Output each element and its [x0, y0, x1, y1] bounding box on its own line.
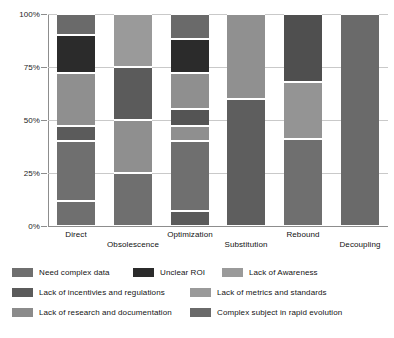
legend-label: Lack of incentivies and regulations	[39, 288, 165, 297]
bar-obsolescence[interactable]	[114, 14, 152, 226]
chart-legend: Need complex dataUnclear ROILack of Awar…	[0, 258, 394, 338]
legend-swatch-icon	[222, 268, 243, 277]
bar-optimization[interactable]	[171, 14, 209, 226]
y-tick-label: 50%	[24, 116, 40, 125]
bar-rebound[interactable]	[284, 14, 322, 226]
legend-label: Complex subject in rapid evolution	[217, 308, 342, 317]
bar-segment[interactable]	[227, 14, 265, 99]
y-axis: 0%25%50%75%100%	[0, 14, 40, 226]
legend-item[interactable]: Lack of Awareness	[222, 266, 318, 278]
y-tick-mark	[41, 226, 47, 227]
legend-label: Lack of research and documentation	[39, 308, 172, 317]
y-tick-label: 25%	[24, 169, 40, 178]
legend-swatch-icon	[190, 308, 211, 317]
legend-label: Lack of metrics and standards	[217, 288, 327, 297]
y-tick-label: 100%	[19, 10, 40, 19]
bar-segment[interactable]	[284, 139, 322, 226]
bar-segment[interactable]	[227, 99, 265, 226]
gridline	[48, 67, 388, 68]
x-tick-label-decoupling: Decoupling	[315, 240, 394, 249]
bar-segment[interactable]	[341, 14, 379, 226]
bar-direct[interactable]	[57, 14, 95, 226]
bar-segment[interactable]	[57, 141, 95, 200]
y-tick-mark	[41, 120, 47, 121]
plot-area	[48, 14, 388, 226]
gridline	[48, 14, 388, 15]
legend-swatch-icon	[190, 288, 211, 297]
x-tick-label-optimization: Optimization	[145, 230, 235, 239]
y-tick-label: 75%	[24, 63, 40, 72]
bar-segment[interactable]	[114, 14, 152, 67]
y-tick-mark	[41, 67, 47, 68]
bar-segment[interactable]	[171, 211, 209, 226]
legend-swatch-icon	[133, 268, 154, 277]
legend-label: Need complex data	[39, 268, 110, 277]
legend-item[interactable]: Complex subject in rapid evolution	[190, 306, 342, 318]
bar-segment[interactable]	[171, 109, 209, 126]
gridline	[48, 226, 388, 227]
stacked-bar-chart: 0%25%50%75%100% DirectObsolescenceOptimi…	[0, 0, 394, 338]
x-tick-label-direct: Direct	[31, 230, 121, 239]
bar-segment[interactable]	[284, 82, 322, 139]
legend-item[interactable]: Unclear ROI	[133, 266, 205, 278]
bar-segment[interactable]	[57, 126, 95, 141]
bar-segment[interactable]	[57, 14, 95, 35]
bar-substitution[interactable]	[227, 14, 265, 226]
legend-swatch-icon	[12, 308, 33, 317]
bar-segment[interactable]	[171, 14, 209, 39]
legend-item[interactable]: Lack of incentivies and regulations	[12, 286, 165, 298]
legend-label: Unclear ROI	[160, 268, 205, 277]
legend-label: Lack of Awareness	[249, 268, 318, 277]
bar-segment[interactable]	[114, 120, 152, 173]
legend-item[interactable]: Lack of metrics and standards	[190, 286, 327, 298]
legend-item[interactable]: Need complex data	[12, 266, 110, 278]
gridline	[48, 173, 388, 174]
bar-decoupling[interactable]	[341, 14, 379, 226]
legend-swatch-icon	[12, 288, 33, 297]
x-tick-label-obsolescence: Obsolescence	[88, 240, 178, 249]
plot-wrapper: 0%25%50%75%100% DirectObsolescenceOptimi…	[0, 0, 394, 250]
legend-swatch-icon	[12, 268, 33, 277]
legend-item[interactable]: Lack of research and documentation	[12, 306, 172, 318]
bar-segment[interactable]	[171, 126, 209, 141]
x-tick-label-substitution: Substitution	[201, 240, 291, 249]
bar-segment[interactable]	[114, 173, 152, 226]
bar-segment[interactable]	[114, 67, 152, 120]
bar-segment[interactable]	[57, 35, 95, 73]
y-tick-mark	[41, 14, 47, 15]
bar-segment[interactable]	[57, 201, 95, 226]
bar-segment[interactable]	[284, 14, 322, 82]
x-tick-label-rebound: Rebound	[258, 230, 348, 239]
bar-segment[interactable]	[171, 141, 209, 211]
bar-segment[interactable]	[57, 73, 95, 126]
bar-segment[interactable]	[171, 73, 209, 109]
bar-segment[interactable]	[171, 39, 209, 73]
y-tick-mark	[41, 173, 47, 174]
gridline	[48, 120, 388, 121]
